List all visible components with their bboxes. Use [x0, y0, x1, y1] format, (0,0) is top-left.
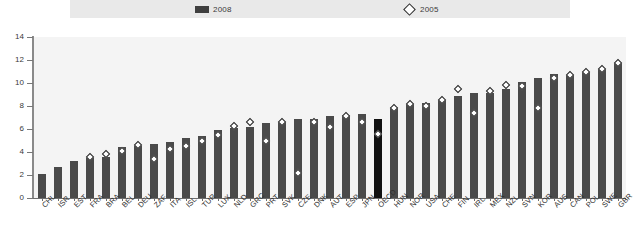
legend-item-2005: 2005 — [403, 2, 439, 16]
y-axis-tick-label: 14 — [2, 32, 24, 41]
y-axis-tick — [27, 106, 33, 107]
y-axis-tick — [27, 129, 33, 130]
bar-gbr — [614, 63, 622, 198]
bar-usa — [422, 103, 430, 198]
y-axis-tick — [27, 175, 33, 176]
bar-nor — [406, 104, 414, 198]
bar-fra — [86, 158, 94, 198]
bar-nzl — [502, 89, 510, 198]
y-axis-tick-label: 8 — [2, 101, 24, 110]
bar-nld — [230, 128, 238, 198]
bar-dnk — [310, 119, 318, 198]
bar-pol — [582, 72, 590, 199]
bar-can — [566, 75, 574, 198]
y-axis-tick-label: 12 — [2, 55, 24, 64]
bar-kor — [534, 78, 542, 198]
y-axis-tick-label: 2 — [2, 170, 24, 179]
bar-chl — [38, 174, 46, 198]
legend-item-2008: 2008 — [195, 2, 232, 16]
bar-zaf — [150, 144, 158, 198]
bar-svn — [518, 82, 526, 198]
y-axis-tick — [27, 83, 33, 84]
y-axis-tick-label: 4 — [2, 147, 24, 156]
bar-fin — [454, 96, 462, 198]
bar-swe — [598, 69, 606, 198]
bar-cze — [294, 119, 302, 198]
y-axis-tick — [27, 60, 33, 61]
chart-figure: 2008 2005 02468101214 CHLISRESTFRABRABEL… — [0, 0, 634, 245]
bar-hun — [390, 107, 398, 198]
bar-isr — [54, 167, 62, 198]
legend-label-2005: 2005 — [420, 5, 439, 14]
bar-mex — [486, 93, 494, 198]
bar-bra — [102, 157, 110, 198]
bar-deu — [134, 146, 142, 198]
y-axis-tick-label: 10 — [2, 78, 24, 87]
bar-svk — [278, 122, 286, 198]
chart-legend: 2008 2005 — [70, 0, 570, 18]
bar-prt — [262, 123, 270, 198]
bar-grc — [246, 127, 254, 198]
bar-est — [70, 161, 78, 198]
y-axis-tick — [27, 37, 33, 38]
legend-bar-swatch-icon — [195, 6, 209, 13]
y-axis-tick-label: 0 — [2, 193, 24, 202]
y-axis-tick — [27, 152, 33, 153]
bar-che — [438, 100, 446, 198]
legend-label-2008: 2008 — [213, 5, 232, 14]
y-axis-tick — [27, 198, 33, 199]
bar-esp — [342, 115, 350, 198]
y-axis-tick-label: 6 — [2, 124, 24, 133]
bar-aus — [550, 74, 558, 198]
bar-jpn — [358, 114, 366, 198]
legend-diamond-swatch-icon — [403, 3, 416, 16]
bar-lux — [214, 130, 222, 198]
